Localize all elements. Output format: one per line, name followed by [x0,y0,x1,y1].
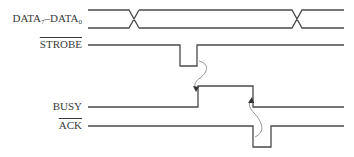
waveforms [0,0,354,157]
ack-waveform [88,126,344,147]
causal-arrow-ack-to-busy [249,99,261,137]
busy-waveform [88,86,344,107]
data-bus-waveform [88,10,344,28]
timing-diagram: DATA7–DATA0 STROBE BUSY ACK [0,0,354,157]
strobe-waveform [88,45,344,66]
